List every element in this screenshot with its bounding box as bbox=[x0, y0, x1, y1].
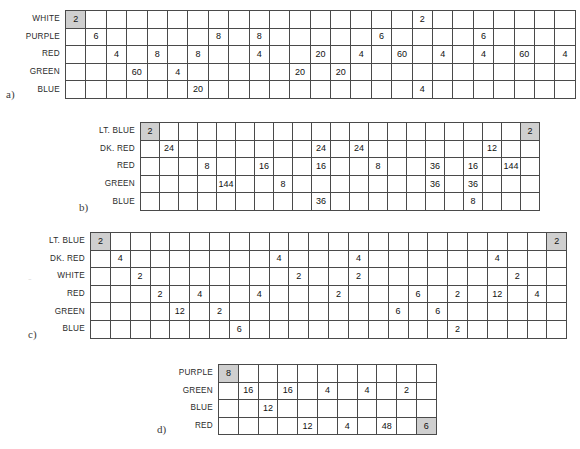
panel-c-cell-r4-c6[interactable]: 2 bbox=[210, 303, 230, 321]
panel-c-cell-r4-c7[interactable] bbox=[230, 303, 250, 321]
panel-a-cell-r0-c6[interactable] bbox=[188, 11, 208, 29]
panel-c-cell-r5-c4[interactable] bbox=[170, 321, 190, 339]
panel-c-cell-r3-c0[interactable] bbox=[91, 286, 111, 304]
panel-c-cell-r0-c0[interactable]: 2 bbox=[91, 233, 111, 251]
panel-a-cell-r1-c20[interactable]: 6 bbox=[474, 29, 494, 47]
panel-a-cell-r1-c4[interactable] bbox=[148, 29, 168, 47]
panel-a-cell-r0-c4[interactable] bbox=[148, 11, 168, 29]
panel-b-cell-r1-c11[interactable]: 24 bbox=[350, 141, 369, 159]
panel-c-cell-r1-c12[interactable] bbox=[329, 251, 349, 269]
panel-a-cell-r3-c6[interactable] bbox=[188, 64, 208, 82]
panel-a-cell-r0-c10[interactable] bbox=[270, 11, 290, 29]
panel-c-cell-r5-c17[interactable] bbox=[428, 321, 448, 339]
panel-a-cell-r4-c14[interactable] bbox=[351, 81, 371, 99]
panel-c-cell-r0-c11[interactable] bbox=[309, 233, 329, 251]
panel-c-cell-r5-c10[interactable] bbox=[289, 321, 309, 339]
panel-a-cell-r2-c1[interactable] bbox=[86, 46, 106, 64]
panel-c-cell-r4-c13[interactable] bbox=[349, 303, 369, 321]
panel-a-cell-r2-c11[interactable] bbox=[290, 46, 310, 64]
panel-a-cell-r1-c9[interactable]: 8 bbox=[250, 29, 270, 47]
panel-b-cell-r3-c9[interactable] bbox=[312, 176, 331, 194]
panel-c-cell-r5-c0[interactable] bbox=[91, 321, 111, 339]
panel-a-cell-r2-c23[interactable] bbox=[535, 46, 555, 64]
panel-a-cell-r0-c8[interactable] bbox=[229, 11, 249, 29]
panel-c-cell-r2-c8[interactable] bbox=[250, 268, 270, 286]
panel-a-cell-r2-c7[interactable] bbox=[209, 46, 229, 64]
panel-b-cell-r4-c5[interactable] bbox=[236, 193, 255, 211]
panel-a-cell-r0-c18[interactable] bbox=[433, 11, 453, 29]
panel-a-cell-r2-c6[interactable]: 8 bbox=[188, 46, 208, 64]
panel-a-cell-r4-c9[interactable] bbox=[250, 81, 270, 99]
panel-c-cell-r5-c16[interactable] bbox=[409, 321, 429, 339]
panel-c-cell-r2-c22[interactable] bbox=[528, 268, 548, 286]
panel-c-cell-r1-c7[interactable] bbox=[230, 251, 250, 269]
panel-b-cell-r1-c1[interactable]: 24 bbox=[160, 141, 179, 159]
panel-c-cell-r3-c2[interactable] bbox=[131, 286, 151, 304]
panel-d-cell-r1-c1[interactable]: 16 bbox=[239, 383, 259, 401]
panel-a-cell-r1-c2[interactable] bbox=[107, 29, 127, 47]
panel-a-cell-r1-c10[interactable] bbox=[270, 29, 290, 47]
panel-b-cell-r2-c11[interactable] bbox=[350, 158, 369, 176]
panel-c-cell-r1-c15[interactable] bbox=[389, 251, 409, 269]
panel-b-cell-r4-c15[interactable] bbox=[426, 193, 445, 211]
panel-c-cell-r2-c0[interactable] bbox=[91, 268, 111, 286]
panel-a-cell-r3-c16[interactable] bbox=[392, 64, 412, 82]
panel-a-cell-r3-c14[interactable] bbox=[351, 64, 371, 82]
panel-a-cell-r4-c21[interactable] bbox=[494, 81, 514, 99]
panel-a-cell-r2-c8[interactable] bbox=[229, 46, 249, 64]
panel-a-cell-r4-c20[interactable] bbox=[474, 81, 494, 99]
panel-a-cell-r3-c17[interactable] bbox=[413, 64, 433, 82]
panel-c-cell-r4-c17[interactable]: 6 bbox=[428, 303, 448, 321]
panel-c-cell-r2-c21[interactable]: 2 bbox=[508, 268, 528, 286]
panel-c-cell-r1-c1[interactable]: 4 bbox=[111, 251, 131, 269]
panel-c-cell-r3-c7[interactable] bbox=[230, 286, 250, 304]
panel-a-cell-r3-c10[interactable] bbox=[270, 64, 290, 82]
panel-a-cell-r1-c21[interactable] bbox=[494, 29, 514, 47]
panel-c-cell-r5-c14[interactable] bbox=[369, 321, 389, 339]
panel-a-cell-r1-c22[interactable] bbox=[515, 29, 535, 47]
panel-a-cell-r3-c5[interactable]: 4 bbox=[168, 64, 188, 82]
panel-c-cell-r5-c5[interactable] bbox=[190, 321, 210, 339]
panel-a-cell-r0-c3[interactable] bbox=[127, 11, 147, 29]
panel-d-cell-r1-c6[interactable] bbox=[338, 383, 358, 401]
panel-b-cell-r0-c15[interactable] bbox=[426, 123, 445, 141]
panel-c-cell-r2-c4[interactable] bbox=[170, 268, 190, 286]
panel-c-cell-r5-c3[interactable] bbox=[151, 321, 171, 339]
panel-c-cell-r3-c15[interactable] bbox=[389, 286, 409, 304]
panel-b-cell-r1-c6[interactable] bbox=[255, 141, 274, 159]
panel-a-cell-r2-c9[interactable]: 4 bbox=[250, 46, 270, 64]
panel-c-cell-r3-c9[interactable] bbox=[270, 286, 290, 304]
panel-c-cell-r1-c5[interactable] bbox=[190, 251, 210, 269]
panel-c-cell-r5-c1[interactable] bbox=[111, 321, 131, 339]
panel-b-cell-r4-c10[interactable] bbox=[331, 193, 350, 211]
panel-c-cell-r5-c15[interactable] bbox=[389, 321, 409, 339]
panel-b-cell-r0-c2[interactable] bbox=[179, 123, 198, 141]
panel-c-cell-r4-c2[interactable] bbox=[131, 303, 151, 321]
panel-b-cell-r4-c11[interactable] bbox=[350, 193, 369, 211]
panel-b-cell-r2-c0[interactable] bbox=[141, 158, 160, 176]
panel-b-cell-r2-c6[interactable]: 16 bbox=[255, 158, 274, 176]
panel-c-cell-r0-c14[interactable] bbox=[369, 233, 389, 251]
panel-c-cell-r3-c8[interactable]: 4 bbox=[250, 286, 270, 304]
panel-a-cell-r2-c4[interactable]: 8 bbox=[148, 46, 168, 64]
panel-b-cell-r1-c12[interactable] bbox=[369, 141, 388, 159]
panel-c-cell-r5-c20[interactable] bbox=[488, 321, 508, 339]
panel-c-cell-r0-c6[interactable] bbox=[210, 233, 230, 251]
panel-a-cell-r4-c10[interactable] bbox=[270, 81, 290, 99]
panel-c-cell-r5-c21[interactable] bbox=[508, 321, 528, 339]
panel-c-cell-r4-c22[interactable] bbox=[528, 303, 548, 321]
panel-a-cell-r0-c17[interactable]: 2 bbox=[413, 11, 433, 29]
panel-c-cell-r0-c1[interactable] bbox=[111, 233, 131, 251]
panel-b-cell-r0-c0[interactable]: 2 bbox=[141, 123, 160, 141]
panel-a-cell-r1-c13[interactable] bbox=[331, 29, 351, 47]
panel-d-cell-r1-c10[interactable] bbox=[417, 383, 437, 401]
panel-d-cell-r1-c8[interactable] bbox=[377, 383, 397, 401]
panel-c-cell-r0-c10[interactable] bbox=[289, 233, 309, 251]
panel-b-cell-r3-c14[interactable] bbox=[407, 176, 426, 194]
panel-c-cell-r5-c12[interactable] bbox=[329, 321, 349, 339]
panel-b-cell-r4-c4[interactable] bbox=[217, 193, 236, 211]
panel-b-cell-r4-c17[interactable]: 8 bbox=[464, 193, 483, 211]
panel-c-cell-r5-c13[interactable] bbox=[349, 321, 369, 339]
panel-a-cell-r3-c11[interactable]: 20 bbox=[290, 64, 310, 82]
panel-b-cell-r3-c0[interactable] bbox=[141, 176, 160, 194]
